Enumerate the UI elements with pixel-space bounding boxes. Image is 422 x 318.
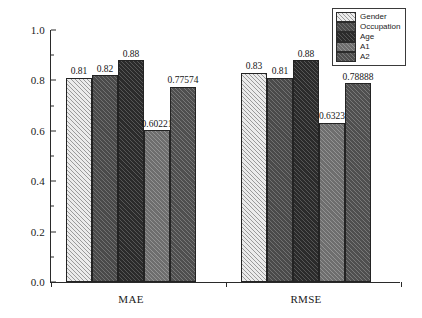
xtick-right [401,282,402,287]
bar-label-mae-occupation: 0.82 [97,65,114,75]
ytick-label-0.2: 0.2 [31,226,45,237]
ytick-label-0.6: 0.6 [31,125,45,136]
legend-label-a1: A1 [360,43,370,51]
legend-swatch-gender [336,12,356,22]
ytick-minor-0.7 [51,105,54,106]
ytick-major-0.8 [51,80,56,81]
ytick-label-0.8: 0.8 [31,75,45,86]
ytick-minor-0.3 [51,206,54,207]
ytick-label-0.0: 0.0 [31,277,45,288]
bar-mae-occupation: 0.82 [92,75,118,282]
ytick-major-0.6 [51,130,56,131]
xtick-left [51,282,52,287]
legend-label-a2: A2 [360,53,370,61]
plot-area: 1.0 0.8 0.6 0.4 0.2 0.0 0.81 0.82 0.88 [50,30,400,283]
legend-item-gender: Gender [336,12,400,22]
bar-rmse-a1: 0.6323 [319,123,345,282]
legend-label-gender: Gender [360,13,387,21]
legend: Gender Occupation Age A1 A2 [332,8,406,66]
xgroup-label-rmse: RMSE [290,293,321,305]
ytick-major-0.2 [51,231,56,232]
legend-item-a2: A2 [336,52,400,62]
legend-label-age: Age [360,33,374,41]
bar-mae-a2: 0.77574 [170,87,196,282]
bar-label-mae-gender: 0.81 [71,67,88,77]
ytick-minor-0.9 [51,55,54,56]
bar-rmse-age: 0.88 [293,60,319,282]
bar-label-mae-a2: 0.77574 [168,76,199,86]
xgroup-label-mae: MAE [118,293,143,305]
ytick-label-1.0: 1.0 [31,25,45,36]
legend-swatch-occupation [336,22,356,32]
xtick-middle [226,282,227,287]
ytick-label-0.4: 0.4 [31,176,45,187]
bar-chart-figure: 1.0 0.8 0.6 0.4 0.2 0.0 0.81 0.82 0.88 [0,0,422,318]
bar-mae-age: 0.88 [118,60,144,282]
bar-label-rmse-a2: 0.78888 [343,73,374,83]
bar-label-rmse-gender: 0.83 [246,62,263,72]
ytick-minor-0.1 [51,256,54,257]
legend-label-occupation: Occupation [360,23,400,31]
bar-mae-a1: 0.60221 [144,130,170,282]
bar-label-mae-a1: 0.60221 [142,120,173,130]
bar-label-rmse-occupation: 0.81 [272,67,289,77]
bar-label-rmse-a1: 0.6323 [319,112,345,122]
bar-rmse-occupation: 0.81 [267,78,293,282]
legend-swatch-age [336,32,356,42]
ytick-major-0.4 [51,181,56,182]
bar-rmse-a2: 0.78888 [345,83,371,282]
ytick-minor-0.5 [51,156,54,157]
legend-swatch-a2 [336,52,356,62]
ytick-major-1.0 [51,30,56,31]
bar-rmse-gender: 0.83 [241,73,267,282]
bar-mae-gender: 0.81 [66,78,92,282]
legend-swatch-a1 [336,42,356,52]
bar-label-mae-age: 0.88 [123,50,140,60]
legend-item-a1: A1 [336,42,400,52]
legend-item-age: Age [336,32,400,42]
legend-item-occupation: Occupation [336,22,400,32]
bar-label-rmse-age: 0.88 [298,50,315,60]
